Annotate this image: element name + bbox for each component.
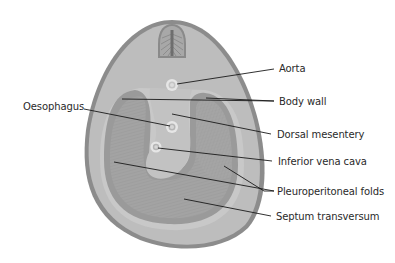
label-body-wall: Body wall xyxy=(279,96,326,108)
label-aorta: Aorta xyxy=(279,63,305,75)
label-oesophagus: Oesophagus xyxy=(23,101,84,113)
central-canal xyxy=(171,30,174,56)
label-dorsal-mesentery: Dorsal mesentery xyxy=(277,129,364,141)
inferior-vena-cava-vessel xyxy=(151,142,162,153)
aorta-vessel xyxy=(166,79,178,91)
oesophagus-vessel xyxy=(166,121,178,133)
label-septum-transversum: Septum transversum xyxy=(276,211,379,223)
label-pleuroperitoneal-folds: Pleuroperitoneal folds xyxy=(277,186,384,198)
label-inferior-vena-cava: Inferior vena cava xyxy=(278,156,367,168)
